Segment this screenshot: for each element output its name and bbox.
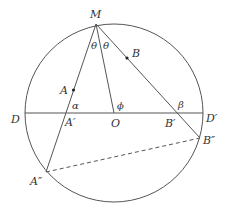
label-D: D [10, 113, 20, 126]
line-M-O [96, 24, 114, 113]
label-A-double-prime: A″ [29, 175, 43, 188]
label-O: O [111, 117, 120, 130]
label-B-prime: B′ [164, 117, 176, 130]
line-M-A-double-prime [46, 24, 96, 172]
label-M: M [89, 8, 102, 21]
label-phi: ϕ [117, 100, 124, 111]
dashed-chord-A-B [46, 138, 200, 172]
point-B-dot [125, 56, 128, 59]
point-A-dot [72, 88, 75, 91]
label-theta-right: θ [103, 40, 109, 51]
label-B: B [131, 47, 140, 60]
label-A: A [59, 84, 68, 97]
label-theta-left: θ [91, 40, 97, 51]
label-beta: β [177, 99, 184, 110]
label-alpha: α [72, 100, 79, 111]
label-D-prime: D′ [205, 112, 218, 125]
label-A-prime: A′ [64, 116, 76, 129]
label-B-double-prime: B″ [202, 134, 216, 147]
geometry-diagram: M θ θ B A α ϕ β D A′ O B′ D′ B″ A″ [0, 0, 232, 213]
